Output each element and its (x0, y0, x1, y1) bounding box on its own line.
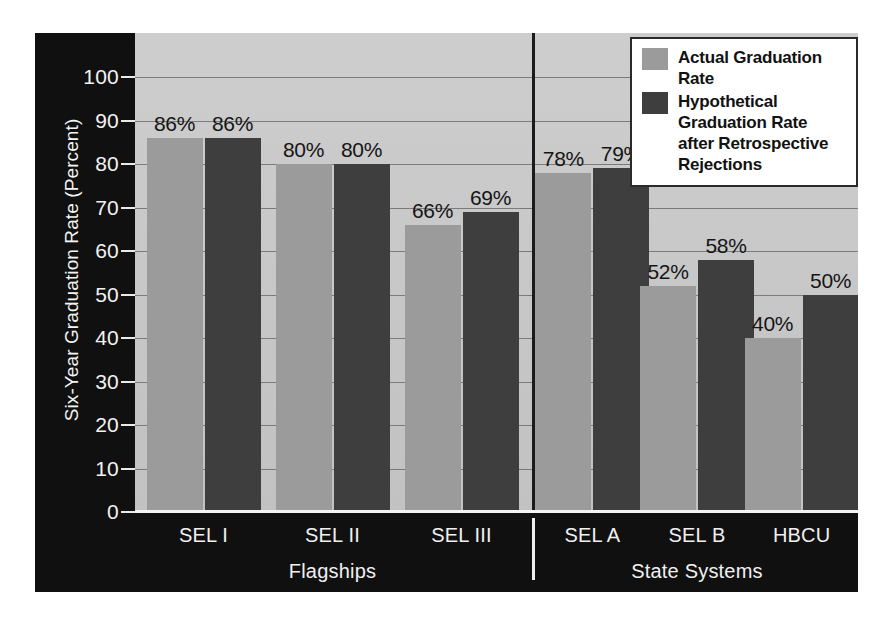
bar-value-label: 40% (747, 313, 799, 334)
y-axis-tick (121, 468, 135, 470)
y-axis-tick (121, 381, 135, 383)
bar (276, 164, 332, 512)
y-axis-tick-label: 0 (41, 501, 119, 522)
y-axis-tick (121, 250, 135, 252)
x-axis-tick-label: HBCU (742, 524, 862, 547)
chart-figure: Six-Year Graduation Rate (Percent) 10090… (35, 33, 858, 592)
y-axis-tick-label: 50 (41, 284, 119, 305)
y-axis-tick (121, 511, 135, 513)
legend-label-hypothetical-line1: Hypothetical Graduation Rate (678, 92, 807, 132)
bar (205, 138, 261, 512)
y-axis-tick-label: 70 (41, 197, 119, 218)
x-axis-tick-label: SEL I (144, 524, 264, 547)
y-axis-tick-label: 30 (41, 371, 119, 392)
legend-label-actual: Actual Graduation Rate (678, 47, 842, 89)
x-axis-group-label: State Systems (597, 560, 797, 583)
bar (803, 295, 858, 513)
legend-item-hypothetical: Hypothetical Graduation Rate after Retro… (642, 91, 842, 175)
bar (147, 138, 203, 512)
y-axis-tick-label: 10 (41, 458, 119, 479)
bar-value-label: 80% (336, 139, 388, 160)
bar-value-label: 78% (537, 148, 589, 169)
group-divider (532, 33, 535, 512)
chart-legend: Actual Graduation Rate Hypothetical Grad… (630, 37, 858, 187)
y-axis-tick-label: 90 (41, 110, 119, 131)
x-axis-tick-label: SEL III (402, 524, 522, 547)
bar-value-label: 80% (278, 139, 330, 160)
bar (745, 338, 801, 512)
bar-value-label: 66% (407, 200, 459, 221)
bar-value-label: 69% (465, 187, 517, 208)
legend-swatch-actual (642, 48, 668, 70)
bar (640, 286, 696, 512)
bar-value-label: 50% (805, 270, 857, 291)
y-axis-tick (121, 424, 135, 426)
y-axis-tick-labels: 1009080706050403020100 (35, 33, 119, 512)
y-axis-tick (121, 76, 135, 78)
y-axis-tick (121, 207, 135, 209)
group-divider-bottom (532, 518, 535, 580)
legend-label-hypothetical: Hypothetical Graduation Rate after Retro… (678, 91, 842, 175)
legend-item-actual: Actual Graduation Rate (642, 47, 842, 89)
bar (463, 212, 519, 512)
bar (535, 173, 591, 512)
y-axis-tick (121, 120, 135, 122)
x-axis-tick-label: SEL II (273, 524, 393, 547)
bar-value-label: 86% (207, 113, 259, 134)
y-axis-tick-label: 40 (41, 327, 119, 348)
y-axis-tick (121, 163, 135, 165)
y-axis-tick-label: 20 (41, 414, 119, 435)
x-axis-group-label: Flagships (233, 560, 433, 583)
bar-value-label: 58% (700, 235, 752, 256)
y-axis-tick (121, 337, 135, 339)
bar (405, 225, 461, 512)
bar (334, 164, 390, 512)
legend-label-hypothetical-line2: after Retrospective Rejections (678, 134, 828, 174)
bar-value-label: 86% (149, 113, 201, 134)
y-axis-tick-label: 100 (41, 66, 119, 87)
bar-value-label: 52% (642, 261, 694, 282)
legend-swatch-hypothetical (642, 92, 668, 114)
figure-caption (0, 617, 882, 635)
y-axis-tick (121, 294, 135, 296)
x-axis: SEL ISEL IISEL IIIFlagshipsSEL ASEL BHBC… (135, 512, 858, 592)
y-axis-tick-label: 80 (41, 153, 119, 174)
x-axis-tick-label: SEL B (637, 524, 757, 547)
y-axis-tick-label: 60 (41, 240, 119, 261)
x-axis-tick-label: SEL A (532, 524, 652, 547)
